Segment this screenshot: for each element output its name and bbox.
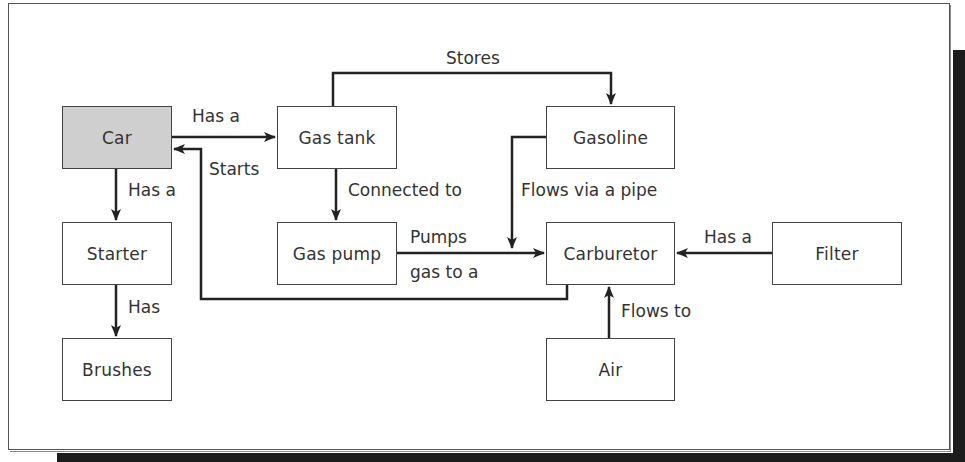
edge-label-car-starter: Has a — [128, 180, 176, 200]
node-filter[interactable]: Filter — [772, 222, 902, 285]
edge-label-flows-to: Flows to — [621, 301, 691, 321]
node-air[interactable]: Air — [546, 338, 675, 401]
node-car-label: Car — [102, 128, 132, 148]
node-gas-pump[interactable]: Gas pump — [277, 222, 397, 285]
edge-label-filter-has-a: Has a — [704, 227, 752, 247]
node-brushes[interactable]: Brushes — [62, 338, 172, 401]
node-starter[interactable]: Starter — [62, 222, 172, 285]
node-carburetor[interactable]: Carburetor — [546, 222, 675, 285]
node-gas-tank-label: Gas tank — [298, 128, 375, 148]
node-carburetor-label: Carburetor — [564, 244, 658, 264]
node-air-label: Air — [599, 360, 623, 380]
edge-label-connected-to: Connected to — [348, 180, 462, 200]
edge-label-pumps-line1: Pumps — [410, 227, 467, 247]
node-gas-pump-label: Gas pump — [293, 244, 381, 264]
node-gasoline-label: Gasoline — [573, 128, 648, 148]
edge-label-starter-has: Has — [128, 297, 160, 317]
edge-label-stores: Stores — [446, 48, 500, 68]
edge-label-pumps-line2: gas to a — [410, 262, 478, 282]
node-brushes-label: Brushes — [82, 360, 152, 380]
node-gasoline[interactable]: Gasoline — [546, 106, 675, 169]
edge-label-starts: Starts — [209, 159, 259, 179]
edge-label-car-gastank: Has a — [192, 106, 240, 126]
node-gas-tank[interactable]: Gas tank — [277, 106, 397, 169]
edge-label-flows-via-pipe: Flows via a pipe — [521, 180, 657, 200]
node-car[interactable]: Car — [62, 106, 172, 169]
node-starter-label: Starter — [87, 244, 147, 264]
node-filter-label: Filter — [815, 244, 858, 264]
edge-stores — [333, 73, 611, 106]
